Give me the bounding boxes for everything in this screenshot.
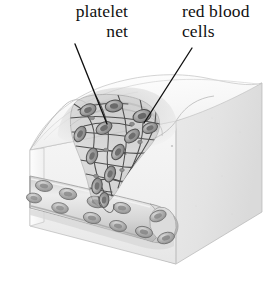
- label-red-blood-cells: red blood cells: [182, 1, 276, 41]
- label-red-blood-cells-line1: red blood: [182, 1, 276, 21]
- label-platelet-net-line2: net: [4, 21, 128, 41]
- top-surface-speck: [171, 145, 173, 147]
- label-platelet-net-line1: platelet: [4, 1, 128, 21]
- figure-root: platelet net red blood cells s: [0, 0, 276, 284]
- label-platelet-net: platelet net: [4, 1, 128, 41]
- edge-text-fragment: s: [0, 96, 7, 108]
- tissue-block-illustration: [0, 0, 276, 284]
- label-red-blood-cells-line2: cells: [182, 21, 276, 41]
